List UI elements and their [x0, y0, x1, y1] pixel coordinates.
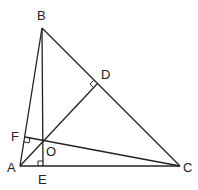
label-point-b: B	[37, 8, 46, 23]
label-point-o: O	[46, 144, 56, 159]
right-angle-mark-e	[38, 161, 43, 166]
label-point-f: F	[11, 129, 19, 144]
right-angle-marks	[24, 80, 93, 166]
right-angle-mark-d	[90, 80, 94, 87]
geometry-diagram: ABCDEFO	[0, 0, 198, 190]
label-point-a: A	[7, 160, 16, 175]
label-point-c: C	[183, 160, 192, 175]
label-point-e: E	[38, 172, 47, 187]
segment-bc	[42, 28, 180, 166]
point-labels: ABCDEFO	[7, 8, 192, 187]
label-point-d: D	[101, 67, 110, 82]
segment-be	[42, 28, 43, 166]
triangle-and-altitudes	[20, 28, 180, 166]
